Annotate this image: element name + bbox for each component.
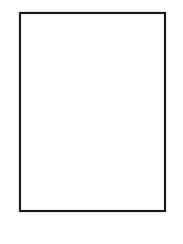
contour-map-canvas	[0, 0, 183, 244]
contour-map-figure	[0, 0, 183, 244]
map-frame-border-overlay	[20, 13, 165, 211]
